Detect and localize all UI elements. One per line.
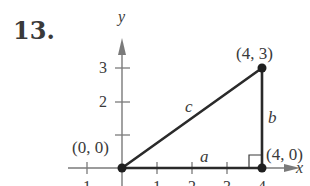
tick-label-y-3: 3 [99,59,107,76]
label-point-4-3: (4, 3) [236,44,273,63]
tick-label-x-neg1: 1 [83,178,91,186]
label-side-a: a [200,147,209,166]
y-axis-arrow-icon [118,38,126,55]
point-4-3 [258,64,267,73]
side-c [122,68,262,168]
triangle [122,68,262,168]
tick-label-x-4: 4 [258,178,266,186]
axis-label-y: y [116,8,126,26]
label-point-4-0: (4, 0) [266,145,303,164]
label-origin: (0, 0) [72,138,109,157]
tick-label-x-1: 1 [153,178,161,186]
label-side-c: c [185,97,193,116]
tick-label-x-2: 2 [188,178,196,186]
label-side-b: b [268,108,277,127]
triangle-graph: 3 2 1 1 2 3 4 y x (0, 0) (4, 0) (4, 3) a… [0,0,310,186]
point-4-0 [258,164,267,173]
point-origin [118,164,127,173]
tick-label-y-2: 2 [99,93,107,110]
tick-label-x-3: 3 [223,178,231,186]
